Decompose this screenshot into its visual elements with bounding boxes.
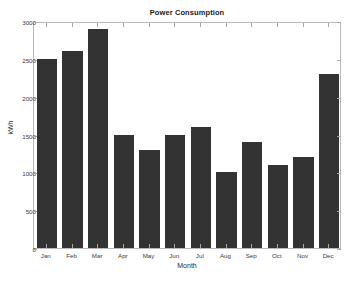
x-tick-mark <box>226 244 227 248</box>
y-tick-mark-right <box>337 98 341 99</box>
x-tick-mark <box>303 244 304 248</box>
bar-jan[interactable] <box>37 59 57 248</box>
bar-aug[interactable] <box>216 172 236 248</box>
x-tick-label-may: May <box>143 252 155 259</box>
bar-slot <box>291 23 317 248</box>
y-axis-label: kWh <box>7 106 14 150</box>
x-tick-label-nov: Nov <box>297 252 308 259</box>
bar-mar[interactable] <box>88 29 108 248</box>
x-tick-mark <box>328 244 329 248</box>
y-tick-mark-right <box>337 136 341 137</box>
y-tick-label: 2000 <box>2 94 36 101</box>
x-tick-mark <box>123 244 124 248</box>
bar-apr[interactable] <box>114 135 134 249</box>
bar-slot <box>85 23 111 248</box>
x-tick-label-dec: Dec <box>323 252 334 259</box>
x-tick-mark-top <box>97 23 98 27</box>
x-tick-label-jun: Jun <box>169 252 179 259</box>
y-tick-mark <box>33 22 37 23</box>
x-tick-mark <box>251 244 252 248</box>
y-tick-mark <box>33 136 37 137</box>
x-tick-mark-top <box>72 23 73 27</box>
bar-sep[interactable] <box>242 142 262 248</box>
bar-oct[interactable] <box>268 165 288 248</box>
x-tick-mark <box>200 244 201 248</box>
bar-jun[interactable] <box>165 135 185 249</box>
bar-slot <box>239 23 265 248</box>
bar-slot <box>137 23 163 248</box>
x-tick-mark <box>97 244 98 248</box>
y-tick-mark <box>33 98 37 99</box>
y-tick-mark-right <box>337 60 341 61</box>
y-tick-label: 1500 <box>2 132 36 139</box>
x-tick-label-sep: Sep <box>246 252 257 259</box>
x-tick-label-mar: Mar <box>92 252 103 259</box>
x-tick-mark-top <box>303 23 304 27</box>
y-tick-mark <box>33 173 37 174</box>
bar-nov[interactable] <box>293 157 313 248</box>
y-tick-mark-right <box>337 22 341 23</box>
x-tick-mark-top <box>149 23 150 27</box>
bar-slot <box>60 23 86 248</box>
bar-may[interactable] <box>139 150 159 248</box>
x-tick-mark <box>174 244 175 248</box>
y-tick-mark <box>33 249 37 250</box>
x-tick-label-feb: Feb <box>66 252 77 259</box>
bar-slot <box>111 23 137 248</box>
x-tick-mark <box>46 244 47 248</box>
y-tick-label: 0 <box>2 246 36 253</box>
x-tick-label-oct: Oct <box>272 252 282 259</box>
bar-slot <box>162 23 188 248</box>
y-tick-mark <box>33 211 37 212</box>
x-tick-label-jul: Jul <box>196 252 204 259</box>
y-tick-mark-right <box>337 211 341 212</box>
x-tick-label-apr: Apr <box>118 252 128 259</box>
chart-figure: Power Consumption kWh 050010001500200025… <box>0 0 355 300</box>
plot-area <box>33 22 341 249</box>
bar-slot <box>214 23 240 248</box>
bar-slot <box>34 23 60 248</box>
bar-slot <box>188 23 214 248</box>
x-tick-mark-top <box>46 23 47 27</box>
x-axis-label: Month <box>33 262 341 269</box>
y-tick-label: 500 <box>2 208 36 215</box>
y-tick-label: 3000 <box>2 19 36 26</box>
bar-feb[interactable] <box>62 51 82 248</box>
x-tick-mark <box>149 244 150 248</box>
x-tick-mark-top <box>251 23 252 27</box>
x-tick-label-jan: Jan <box>41 252 51 259</box>
y-tick-label: 2500 <box>2 56 36 63</box>
chart-title: Power Consumption <box>33 8 341 17</box>
x-tick-mark-top <box>200 23 201 27</box>
x-tick-mark-top <box>277 23 278 27</box>
bar-slot <box>265 23 291 248</box>
x-tick-mark-top <box>123 23 124 27</box>
x-tick-mark <box>277 244 278 248</box>
x-tick-mark-top <box>174 23 175 27</box>
y-tick-mark <box>33 60 37 61</box>
y-tick-mark-right <box>337 249 341 250</box>
y-tick-mark-right <box>337 173 341 174</box>
x-tick-mark <box>72 244 73 248</box>
x-tick-mark-top <box>226 23 227 27</box>
x-tick-label-aug: Aug <box>220 252 231 259</box>
bar-jul[interactable] <box>191 127 211 248</box>
x-tick-mark-top <box>328 23 329 27</box>
y-tick-label: 1000 <box>2 170 36 177</box>
bars-container <box>34 23 340 248</box>
bar-dec[interactable] <box>319 74 339 248</box>
